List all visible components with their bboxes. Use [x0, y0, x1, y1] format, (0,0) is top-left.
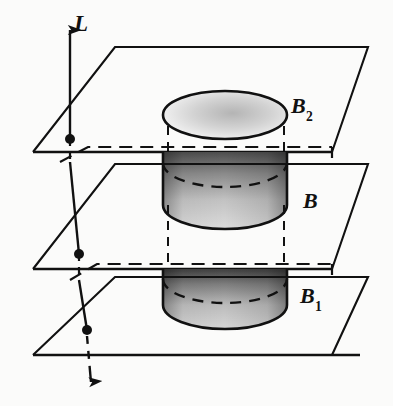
- label-B2-base: B: [291, 93, 306, 118]
- top-disk-ellipse: [163, 91, 287, 139]
- intersection-dot-top-plane: [65, 134, 75, 144]
- label-line-L-text: L: [74, 11, 88, 36]
- label-B-base: B: [303, 188, 318, 213]
- label-B1-base: B: [300, 283, 315, 308]
- geometry-figure: L B2 B B1: [0, 0, 393, 406]
- intersection-dot-middle-plane: [74, 249, 84, 259]
- figure-canvas: [0, 0, 393, 406]
- label-line-L: L: [74, 12, 88, 35]
- label-lower-solid-B1: B1: [300, 285, 322, 311]
- line-L-bottom-arrow: [90, 371, 91, 382]
- label-top-disk-B2: B2: [291, 95, 313, 121]
- line-L-hidden-below-bottom-plane: [87, 336, 90, 371]
- label-B1-subscript: 1: [315, 299, 322, 314]
- label-middle-solid-B: B: [303, 190, 318, 212]
- intersection-dot-bottom-plane: [82, 325, 92, 335]
- top-disk-B2: [163, 91, 287, 139]
- line-L-middle-segment: [70, 162, 79, 254]
- label-B2-subscript: 2: [306, 109, 313, 124]
